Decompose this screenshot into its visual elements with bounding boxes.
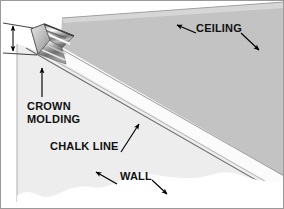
label-wall: WALL	[120, 170, 152, 183]
label-crown-molding-line2: MOLDING	[27, 113, 80, 125]
label-ceiling: CEILING	[196, 22, 242, 35]
label-crown-molding: CROWNMOLDING	[27, 100, 80, 125]
diagram-canvas: CEILING CROWNMOLDING CHALK LINE WALL	[0, 0, 284, 209]
label-crown-molding-line1: CROWN	[27, 100, 71, 112]
label-chalk-line: CHALK LINE	[50, 140, 119, 153]
